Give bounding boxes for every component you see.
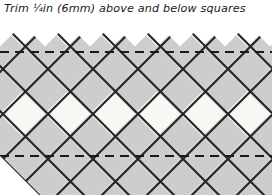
diagram-svg (0, 18, 272, 195)
diagram-page: Trim ¼in (6mm) above and below squares (0, 0, 272, 195)
instruction-caption: Trim ¼in (6mm) above and below squares (4, 0, 272, 20)
lattice-group (0, 18, 272, 195)
fraction-glyph: ¼ (33, 3, 43, 14)
caption-before-fraction: Trim (4, 2, 33, 15)
caption-after-fraction: in (6mm) above and below squares (43, 2, 246, 15)
square-on-point-diagram (0, 18, 272, 195)
